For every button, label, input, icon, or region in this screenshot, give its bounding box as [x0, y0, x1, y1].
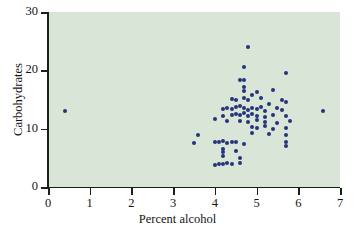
x-axis-tick-label: 6 [288, 197, 308, 210]
x-axis-tick-label: 2 [121, 197, 141, 210]
data-point [225, 119, 229, 123]
x-axis-tick [131, 188, 133, 195]
data-point [213, 163, 217, 167]
data-point [267, 102, 271, 106]
data-point [263, 124, 267, 128]
data-point [259, 96, 263, 100]
data-point [284, 126, 288, 130]
x-axis-tick-label: 5 [247, 197, 267, 210]
x-axis-tick [298, 188, 300, 195]
data-point [250, 93, 254, 97]
data-point [225, 161, 229, 165]
y-axis-title: Carbohydrates [11, 25, 26, 175]
data-point [250, 106, 254, 110]
data-point [271, 88, 275, 92]
x-axis-title: Percent alcohol [0, 212, 355, 227]
y-axis-tick-label: 30 [0, 5, 38, 18]
data-point [284, 114, 288, 118]
data-point [250, 125, 254, 129]
data-point [242, 65, 246, 69]
data-point [275, 121, 279, 125]
data-point [284, 133, 288, 137]
data-point [192, 141, 196, 145]
data-point [225, 106, 229, 110]
data-point [234, 98, 238, 102]
data-point [280, 98, 284, 102]
data-point [321, 109, 325, 113]
data-point [221, 114, 225, 118]
x-axis-tick [90, 188, 92, 195]
data-point [271, 127, 275, 131]
x-axis-tick-label: 3 [163, 197, 183, 210]
data-point [284, 71, 288, 75]
data-point [234, 149, 238, 153]
data-point [280, 108, 284, 112]
data-point [263, 115, 267, 119]
data-point [284, 144, 288, 148]
y-axis-tick [41, 187, 48, 189]
data-point [255, 126, 259, 130]
data-point [246, 120, 250, 124]
data-point [242, 89, 246, 93]
data-point [230, 97, 234, 101]
y-axis-line [47, 12, 49, 188]
data-point [284, 140, 288, 144]
data-point [275, 106, 279, 110]
data-point [246, 98, 250, 102]
scatter-plot-figure: 0102030 01234567 Percent alcohol Carbohy… [0, 0, 355, 232]
data-point [288, 119, 292, 123]
x-axis-tick [173, 188, 175, 195]
data-point [238, 161, 242, 165]
data-point [250, 131, 254, 135]
x-axis-tick-label: 0 [38, 197, 58, 210]
data-point [196, 133, 200, 137]
data-point [255, 118, 259, 122]
data-point [246, 45, 250, 49]
y-axis-tick [41, 12, 48, 14]
x-axis-tick [340, 188, 342, 195]
data-point [221, 154, 225, 158]
data-point [263, 109, 267, 113]
x-axis-tick-label: 1 [80, 197, 100, 210]
data-point [259, 105, 263, 109]
data-point [284, 100, 288, 104]
data-point [63, 109, 67, 113]
data-point [263, 120, 267, 124]
x-axis-tick-label: 4 [205, 197, 225, 210]
data-points-layer [48, 12, 340, 187]
data-point [225, 141, 229, 145]
data-point [255, 107, 259, 111]
data-point [242, 142, 246, 146]
data-point [250, 112, 254, 116]
y-axis-tick [41, 129, 48, 131]
y-axis-tick [41, 70, 48, 72]
data-point [267, 132, 271, 136]
y-axis-tick-label: 0 [0, 180, 38, 193]
data-point [230, 140, 234, 144]
data-point [234, 140, 238, 144]
data-point [230, 162, 234, 166]
x-axis-tick [257, 188, 259, 195]
plot-area [48, 12, 340, 187]
data-point [230, 113, 234, 117]
data-point [238, 119, 242, 123]
data-point [213, 117, 217, 121]
x-axis-tick [215, 188, 217, 195]
x-axis-tick [48, 188, 50, 195]
data-point [271, 113, 275, 117]
data-point [230, 107, 234, 111]
data-point [238, 156, 242, 160]
data-point [255, 90, 259, 94]
x-axis-tick-label: 7 [330, 197, 350, 210]
data-point [242, 78, 246, 82]
